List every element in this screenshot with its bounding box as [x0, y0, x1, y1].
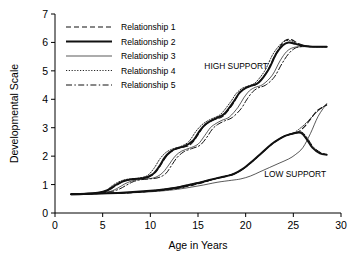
y-tick-label: 5 [42, 65, 48, 77]
x-tick-label: 5 [100, 219, 106, 231]
annotation-low-support: LOW SUPPORT [264, 169, 326, 179]
y-tick-label: 7 [42, 8, 48, 20]
y-tick-label: 2 [42, 150, 48, 162]
series-line [71, 104, 326, 194]
x-axis-title: Age in Years [169, 239, 228, 251]
x-tick-label: 10 [144, 219, 156, 231]
y-tick-label: 4 [42, 93, 48, 105]
legend: Relationship 1Relationship 2Relationship… [66, 22, 176, 90]
series-line [71, 105, 326, 194]
x-tick-label: 0 [52, 219, 58, 231]
x-tick-label: 30 [335, 219, 347, 231]
y-tick-label: 1 [42, 179, 48, 191]
series-line [71, 104, 326, 195]
x-tick-label: 20 [240, 219, 252, 231]
chart-canvas: 01234567051015202530Age in YearsDevelopm… [0, 0, 358, 262]
x-tick-label: 25 [287, 219, 299, 231]
y-tick-label: 0 [42, 207, 48, 219]
legend-label: Relationship 5 [121, 80, 176, 90]
series-group-low-support [71, 104, 326, 195]
y-axis-title: Developmental Scale [8, 64, 20, 163]
figure: 01234567051015202530Age in YearsDevelopm… [0, 0, 358, 262]
series-line [71, 132, 326, 194]
legend-label: Relationship 4 [121, 66, 176, 76]
x-tick-label: 15 [192, 219, 204, 231]
annotation-high-support: HIGH SUPPORT [204, 61, 268, 71]
y-tick-label: 3 [42, 122, 48, 134]
y-tick-label: 6 [42, 36, 48, 48]
legend-label: Relationship 2 [121, 37, 176, 47]
legend-label: Relationship 1 [121, 22, 176, 32]
series-line [71, 132, 326, 194]
legend-label: Relationship 3 [121, 51, 176, 61]
